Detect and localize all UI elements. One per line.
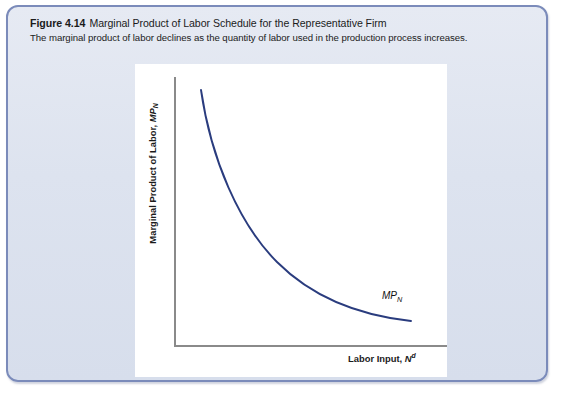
mpn-curve-path: [201, 90, 411, 321]
plot-panel: Marginal Product of Labor, MPN Labor Inp…: [135, 64, 447, 377]
mpn-curve-label-var: MP: [382, 290, 397, 301]
mpn-curve-label: MPN: [382, 290, 402, 304]
mpn-curve-svg: [135, 64, 447, 377]
figure-title: Figure 4.14Marginal Product of Labor Sch…: [30, 16, 530, 30]
figure-card: Figure 4.14Marginal Product of Labor Sch…: [6, 5, 548, 382]
figure-subtitle: The marginal product of labor declines a…: [30, 31, 530, 45]
caption-block: Figure 4.14Marginal Product of Labor Sch…: [30, 16, 530, 45]
mpn-curve-label-sub: N: [397, 295, 402, 304]
figure-title-text: Marginal Product of Labor Schedule for t…: [89, 17, 386, 29]
plot-area: Marginal Product of Labor, MPN Labor Inp…: [135, 64, 447, 377]
figure-number: Figure 4.14: [30, 17, 85, 29]
